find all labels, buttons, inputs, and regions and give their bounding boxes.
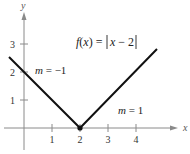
x-axis-label: x bbox=[182, 122, 188, 133]
absolute-value-graph: x y 1 2 3 4 1 2 3 f(x) = x − 2 m = −1 m … bbox=[0, 0, 190, 154]
x-tick-label: 1 bbox=[50, 134, 55, 145]
function-label: f(x) = x − 2 bbox=[76, 35, 136, 49]
slope-label-right: m = 1 bbox=[118, 104, 143, 116]
graph-line bbox=[9, 49, 157, 128]
slope-label-left: m = −1 bbox=[35, 64, 66, 76]
y-axis-arrow-icon bbox=[22, 12, 27, 20]
y-tick-label: 3 bbox=[10, 39, 15, 50]
svg-text:x − 2: x − 2 bbox=[109, 35, 134, 49]
x-tick-label: 4 bbox=[134, 134, 139, 145]
x-ticks: 1 2 3 4 bbox=[50, 124, 139, 145]
y-tick-label: 2 bbox=[10, 67, 15, 78]
svg-text:f(x) =: f(x) = bbox=[76, 35, 103, 49]
x-axis-arrow-icon bbox=[170, 126, 178, 131]
x-tick-label: 2 bbox=[78, 134, 83, 145]
vertex-point bbox=[77, 125, 82, 130]
x-tick-label: 3 bbox=[106, 134, 111, 145]
y-axis-label: y bbox=[20, 0, 26, 11]
y-tick-label: 1 bbox=[10, 95, 15, 106]
